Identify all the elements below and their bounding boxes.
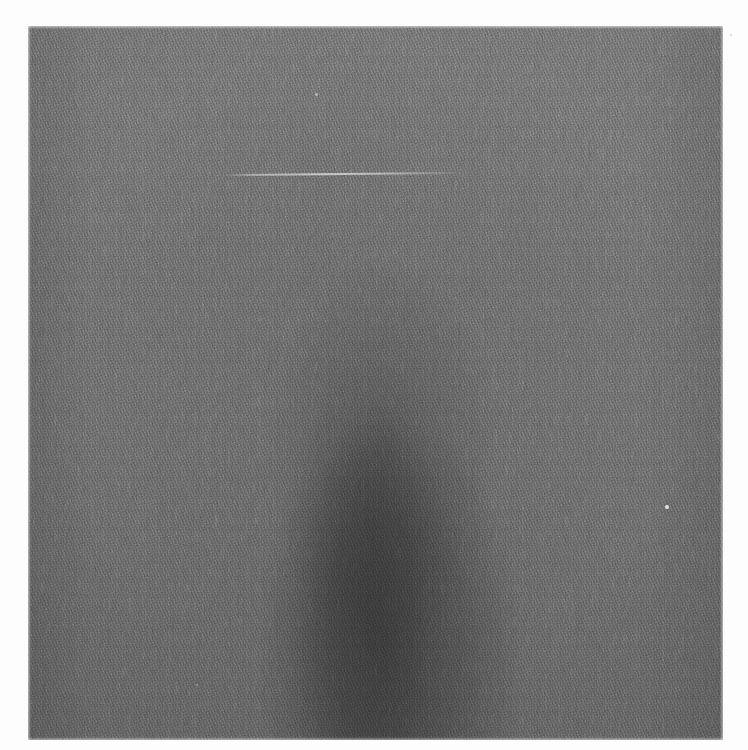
swatch-edge-bottom (28, 737, 723, 740)
lint-speck-upper (315, 93, 318, 96)
dark-speck-top-right (730, 34, 732, 36)
lint-speck-right (665, 505, 669, 509)
dark-speck-mid (470, 432, 472, 434)
fabric-swatch (28, 26, 723, 740)
lint-speck-lower-left (196, 684, 198, 686)
image-canvas: Close-up photograph of a gray twill-weav… (0, 0, 748, 750)
swatch-edge-right (720, 26, 723, 740)
twill-counter-diagonal (28, 26, 723, 740)
swatch-edge-left (28, 26, 31, 740)
swatch-edge-top (28, 26, 723, 29)
